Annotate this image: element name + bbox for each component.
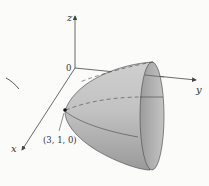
z-axis-label: z <box>66 12 73 23</box>
paraboloid-rim <box>140 62 164 170</box>
x-axis-label: x <box>11 143 17 154</box>
scan-artifact-mark <box>6 78 19 89</box>
y-axis-label: y <box>195 84 202 95</box>
point-leader-line <box>59 113 64 131</box>
origin-label: 0 <box>66 63 71 73</box>
paraboloid-diagram: z y x 0 (3, 1, 0) <box>0 0 209 186</box>
point-marker <box>63 108 67 112</box>
point-label: (3, 1, 0) <box>43 135 77 145</box>
